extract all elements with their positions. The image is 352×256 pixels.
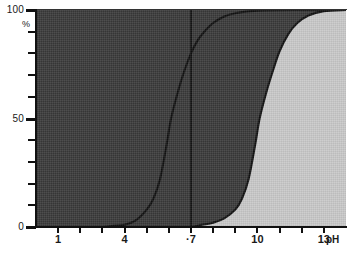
y-tick-label-0: 0	[0, 221, 24, 232]
y-tick-100	[26, 9, 36, 12]
x-tick-8	[212, 226, 214, 233]
y-tick-label-100: 100	[0, 4, 24, 15]
x-tick-9	[234, 226, 236, 233]
x-tick-11	[279, 226, 281, 233]
x-tick-label-4: 4	[110, 233, 140, 245]
x-tick-1	[57, 226, 59, 233]
y-axis-unit-label: %	[22, 19, 30, 29]
y-tick-0	[26, 226, 36, 229]
y-tick-20	[28, 183, 36, 185]
y-tick-label-50: 50	[0, 113, 24, 124]
y-tick-60	[28, 96, 36, 98]
y-tick-10	[28, 204, 36, 206]
x-tick-label-7: ·7	[176, 233, 206, 245]
x-tick-7	[190, 226, 192, 233]
x-tick-label-10: 10	[242, 233, 272, 245]
y-tick-30	[28, 161, 36, 163]
x-tick-3	[101, 226, 103, 233]
y-tick-80	[28, 52, 36, 54]
speciation-ph-chart: 05010014·71013 % pH	[0, 0, 352, 256]
x-tick-2	[79, 226, 81, 233]
x-tick-5	[146, 226, 148, 233]
x-tick-12	[301, 226, 303, 233]
x-axis-unit-label: pH	[326, 234, 339, 245]
plot-area	[36, 10, 346, 227]
y-tick-90	[28, 31, 36, 33]
x-tick-4	[124, 226, 126, 233]
x-tick-label-1: 1	[43, 233, 73, 245]
y-tick-50	[26, 118, 36, 121]
y-tick-40	[28, 139, 36, 141]
x-tick-13	[323, 226, 325, 233]
plot-canvas	[36, 10, 346, 227]
plot-top-border	[35, 9, 347, 10]
x-tick-10	[256, 226, 258, 233]
x-tick-6	[168, 226, 170, 233]
y-tick-70	[28, 74, 36, 76]
